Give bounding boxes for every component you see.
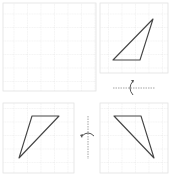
horizontal-flip-indicator — [113, 80, 155, 95]
grid-panel-bottom-right — [100, 103, 168, 173]
diagram-canvas — [0, 0, 171, 177]
vertical-flip-indicator — [80, 116, 94, 159]
grid-panel-top-left — [3, 3, 96, 91]
transformation-diagram — [0, 0, 171, 177]
